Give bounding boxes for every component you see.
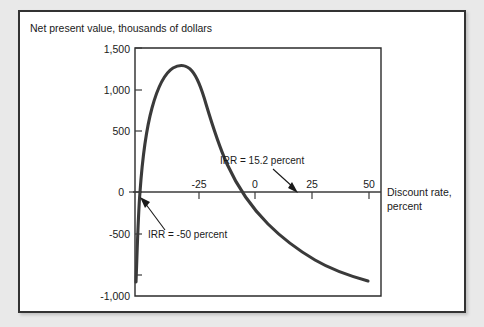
irr-positive-label: IRR = 15.2 percent (220, 155, 304, 166)
x-tick-label: 0 (252, 178, 258, 190)
npv-chart: Net present value, thousands of dollars … (20, 12, 468, 315)
y-tick-label: -1,000 (100, 290, 130, 302)
npv-curve (136, 66, 368, 282)
irr-negative-label: IRR = -50 percent (148, 229, 227, 240)
y-tick-label: 1,000 (104, 84, 130, 96)
irr-negative-leader (145, 203, 165, 230)
x-tick-label: 50 (363, 178, 375, 190)
plot-frame (135, 48, 381, 296)
x-tick-label: 25 (306, 178, 318, 190)
annotation-irr-negative: IRR = -50 percent (140, 197, 227, 240)
x-axis-label: Discount rate, percent (387, 186, 452, 212)
x-tick-label: -25 (191, 178, 206, 190)
x-axis-label-line2: percent (387, 200, 422, 212)
y-tick-label: 0 (118, 186, 124, 198)
x-tick-labels: -25 0 25 50 (191, 178, 375, 190)
x-tick-marks (199, 192, 369, 199)
x-axis-label-line1: Discount rate, (387, 186, 452, 198)
y-tick-labels: 1,500 1,000 500 0 -500 -1,000 (100, 43, 130, 302)
irr-negative-arrowhead (140, 197, 150, 208)
y-tick-label: 500 (112, 125, 130, 137)
y-tick-label: -500 (109, 228, 130, 240)
figure-frame: Net present value, thousands of dollars … (18, 10, 466, 313)
y-tick-label: 1,500 (104, 43, 130, 55)
chart-title: Net present value, thousands of dollars (30, 22, 212, 34)
